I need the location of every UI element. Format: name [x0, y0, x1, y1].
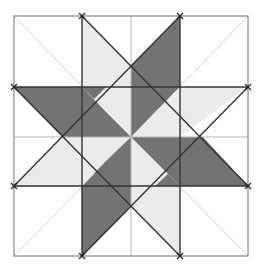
bottom-arm-dark: [82, 186, 131, 256]
bottom-arm-light: [131, 186, 180, 256]
right-arm-light: [180, 87, 248, 137]
left-arm-light: [14, 137, 82, 186]
top-arm-dark: [131, 16, 180, 87]
star-diagram: [0, 0, 263, 271]
diagram-canvas: [0, 0, 263, 271]
left-arm-dark: [14, 87, 82, 137]
top-arm-light: [82, 16, 131, 87]
right-arm-dark: [180, 137, 248, 186]
